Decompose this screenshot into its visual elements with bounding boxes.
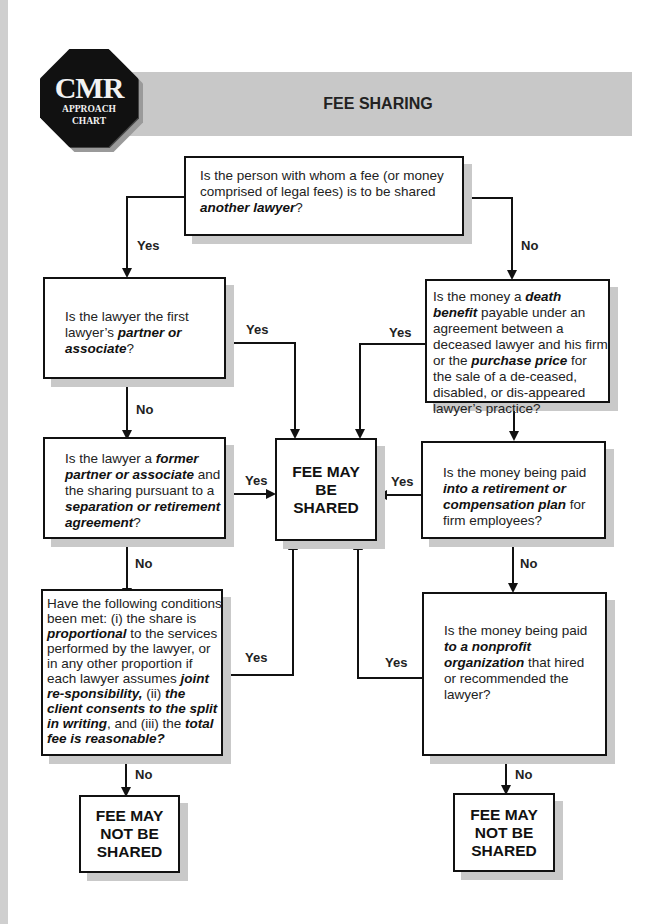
- edge-nonprofit-no-v: [505, 755, 507, 789]
- edge-retirement-no-v: [512, 538, 514, 584]
- edge-death-yes-h: [360, 343, 425, 345]
- edge-former-yes-h: [225, 493, 267, 495]
- terminal-fee-may-not-be-shared-left: FEE MAY NOT BE SHARED: [79, 795, 180, 873]
- node-text: Is the lawyer a former partner or associ…: [65, 451, 223, 531]
- edge-label-lawyer-yes: Yes: [137, 238, 159, 253]
- edge-label-retirement-yes: Yes: [391, 474, 413, 489]
- emphasis-text: into a retirement or compensation plan: [443, 481, 566, 512]
- logo-main-text: CMR: [55, 73, 124, 103]
- edge-partner-no-v: [126, 378, 128, 431]
- edge-label-former-yes: Yes: [245, 473, 267, 488]
- arrow-icon: [509, 431, 519, 441]
- node-text: Is the lawyer the first lawyer’s partner…: [65, 309, 215, 357]
- node-nonprofit: Is the money being paid to a nonprofit o…: [422, 592, 607, 756]
- node-retirement-plan: Is the money being paid into a retiremen…: [421, 441, 606, 539]
- arrow-icon: [377, 490, 387, 500]
- edge-lawyer-yes-v: [126, 196, 128, 269]
- edge-conditions-yes-v: [292, 548, 294, 676]
- emphasis-text: separation or retirement agreement: [65, 499, 220, 530]
- emphasis-text: purchase price: [471, 353, 567, 368]
- terminal-text: FEE MAY BE SHARED: [292, 463, 359, 517]
- node-partner-or-associate: Is the lawyer the first lawyer’s partner…: [43, 277, 226, 379]
- edge-label-former-no: No: [135, 556, 152, 571]
- edge-label-partner-yes: Yes: [246, 322, 268, 337]
- edge-label-partner-no: No: [136, 402, 153, 417]
- node-text: Is the money being paid to a nonprofit o…: [444, 623, 594, 703]
- edge-conditions-yes-h: [222, 674, 294, 676]
- page-edge-strip: [0, 0, 8, 924]
- terminal-text: FEE MAY NOT BE SHARED: [470, 806, 537, 860]
- node-former-partner: Is the lawyer a former partner or associ…: [43, 437, 226, 539]
- edge-label-death-yes: Yes: [389, 325, 411, 340]
- arrow-icon: [353, 540, 363, 550]
- arrow-icon: [288, 540, 298, 550]
- edge-conditions-no-v: [125, 755, 127, 791]
- emphasis-text: partner or associate: [65, 325, 182, 356]
- edge-label-conditions-yes: Yes: [245, 650, 267, 665]
- edge-partner-yes-h: [225, 342, 296, 344]
- edge-label-nonprofit-yes: Yes: [385, 655, 407, 670]
- emphasis-text: death benefit: [433, 289, 561, 320]
- terminal-fee-may-not-be-shared-right: FEE MAY NOT BE SHARED: [453, 793, 555, 872]
- logo-sub-line2: CHART: [72, 115, 106, 127]
- edge-nonprofit-yes-v: [357, 548, 359, 679]
- emphasis-text: proportional: [47, 626, 127, 641]
- node-text: Have the following conditions been met: …: [47, 596, 223, 746]
- edge-lawyer-no-v: [511, 197, 513, 271]
- edge-label-retirement-no: No: [520, 556, 537, 571]
- edge-label-lawyer-no: No: [521, 238, 538, 253]
- emphasis-text: another lawyer: [200, 200, 295, 215]
- node-text: Is the money being paid into a retiremen…: [443, 465, 601, 529]
- edge-lawyer-yes-h: [127, 196, 184, 198]
- edge-retirement-yes-h: [386, 494, 422, 496]
- node-another-lawyer: Is the person with whom a fee (or money …: [184, 156, 464, 236]
- node-conditions: Have the following conditions been met: …: [41, 589, 223, 756]
- emphasis-text: former partner or associate: [65, 451, 199, 482]
- terminal-fee-may-be-shared: FEE MAY BE SHARED: [275, 438, 377, 541]
- edge-label-nonprofit-no: No: [515, 767, 532, 782]
- node-text: Is the person with whom a fee (or money …: [200, 168, 450, 216]
- emphasis-text: to a nonprofit organization: [444, 639, 531, 670]
- edge-death-yes-v: [359, 343, 361, 430]
- edge-partner-yes-v: [294, 342, 296, 430]
- edge-label-conditions-no: No: [135, 767, 152, 782]
- edge-former-no-v: [126, 538, 128, 590]
- logo-sub-line1: APPROACH: [62, 103, 116, 115]
- edge-lawyer-no-h: [464, 197, 513, 199]
- node-death-benefit: Is the money a death benefit payable und…: [425, 279, 610, 403]
- edge-nonprofit-yes-h: [358, 677, 422, 679]
- terminal-text: FEE MAY NOT BE SHARED: [96, 807, 163, 861]
- node-text: Is the money a death benefit payable und…: [433, 289, 608, 417]
- page-title: FEE SHARING: [128, 72, 608, 136]
